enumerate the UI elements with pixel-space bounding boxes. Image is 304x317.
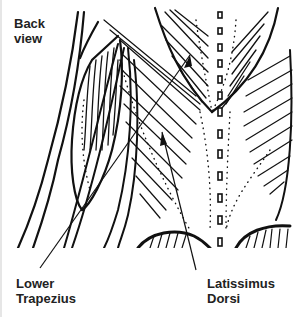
latissimus-dorsi-label: Latissimus Dorsi	[207, 276, 275, 306]
anatomy-diagram: Back view Lower Trapezius Latissimus Dor…	[0, 0, 304, 317]
spine	[218, 12, 222, 246]
view-label: Back view	[14, 16, 45, 46]
pointer-lines	[40, 55, 196, 270]
lower-trapezius-label: Lower Trapezius	[16, 276, 76, 306]
back-muscles-illustration	[0, 0, 304, 317]
arrowhead-icon	[160, 132, 167, 146]
arm-outline	[18, 12, 122, 248]
latissimus-dorsi-pointer	[162, 132, 196, 270]
